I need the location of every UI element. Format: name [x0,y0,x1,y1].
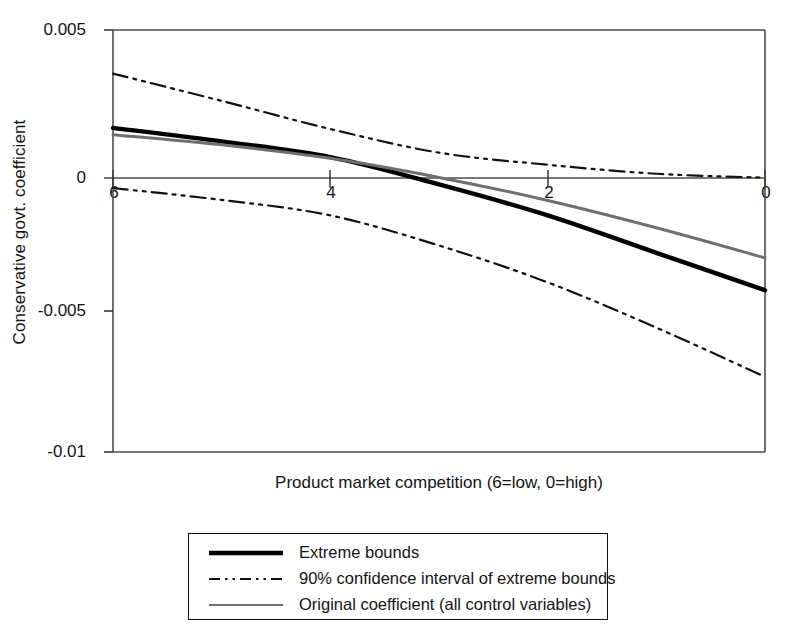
axis-frame [113,30,765,452]
legend-item-confidence-interval: 90% confidence interval of extreme bound… [189,564,607,593]
legend-label-2: Original coefficient (all control variab… [299,595,591,614]
series-layer [113,74,765,377]
y-axis-ticks [104,30,113,452]
series-line-1 [113,74,765,178]
legend-label-1: 90% confidence interval of extreme bound… [299,569,615,588]
legend-swatch-solid-thick-icon [207,543,285,563]
legend-item-extreme-bounds: Extreme bounds [189,538,607,567]
legend-item-original-coefficient: Original coefficient (all control variab… [189,590,607,619]
series-line-2 [113,188,765,377]
legend-label-0: Extreme bounds [299,543,419,562]
chart-legend: Extreme bounds 90% confidence interval o… [188,533,608,620]
legend-swatch-solid-thin-gray-icon [207,595,285,615]
legend-swatch-dash-dot-icon [207,569,285,589]
chart-figure: Conservative govt. coefficient 0.005 0 -… [0,0,788,644]
